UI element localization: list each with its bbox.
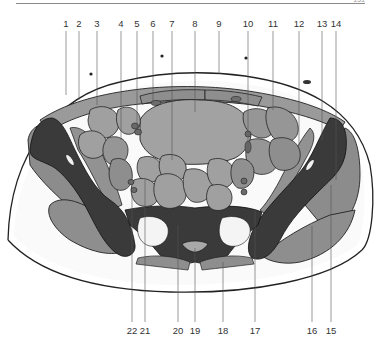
- bowel-loop-center-7: [207, 185, 232, 211]
- iliac-vessel-left-2: [135, 129, 142, 135]
- iliac-vessel-right-3: [241, 178, 247, 184]
- label-13: 13: [317, 18, 328, 29]
- label-6: 6: [150, 18, 155, 29]
- label-3: 3: [94, 18, 99, 29]
- label-18: 18: [218, 325, 229, 336]
- label-17: 17: [250, 325, 261, 336]
- epigastric-vessel-right: [231, 97, 241, 102]
- iliac-vessel-right-4: [241, 189, 247, 195]
- iliac-vessel-left-3: [128, 179, 134, 184]
- label-7: 7: [169, 18, 174, 29]
- label-2: 2: [76, 18, 81, 29]
- label-14: 14: [331, 18, 342, 29]
- iliac-vessel-left-1: [132, 123, 139, 129]
- label-5: 5: [134, 18, 139, 29]
- bladder-or-uterus: [140, 100, 251, 165]
- label-19: 19: [190, 325, 201, 336]
- subcutaneous-vessel: [303, 80, 311, 84]
- bowel-loop-right-4: [269, 138, 300, 171]
- subcutaneous-dot-1: [89, 72, 92, 75]
- label-21: 21: [140, 325, 151, 336]
- label-1: 1: [63, 18, 68, 29]
- label-15: 15: [326, 325, 337, 336]
- bowel-loop-left-3: [78, 131, 106, 158]
- iliac-vessel-left-4: [131, 187, 137, 192]
- obturator-foramen-left: [138, 216, 169, 246]
- bottom-labels: 22 21 20 19 18 17 16 15: [127, 325, 337, 336]
- label-22: 22: [127, 325, 138, 336]
- label-8: 8: [192, 18, 197, 29]
- subcutaneous-dot-2: [160, 54, 163, 57]
- label-16: 16: [307, 325, 318, 336]
- label-12: 12: [294, 18, 305, 29]
- label-4: 4: [118, 18, 123, 29]
- subcutaneous-dot-3: [244, 56, 247, 59]
- top-labels: 1 2 3 4 5 6 7 8 9 10 11 12 13 14: [63, 18, 341, 29]
- label-11: 11: [268, 18, 278, 29]
- label-10: 10: [243, 18, 254, 29]
- label-20: 20: [173, 325, 184, 336]
- label-9: 9: [216, 18, 221, 29]
- bowel-loop-right-5: [231, 159, 254, 189]
- pelvis-cross-section-diagram: 1 2 3 4 5 6 7 8 9 10 11 12 13 14 22 21 2…: [0, 0, 383, 351]
